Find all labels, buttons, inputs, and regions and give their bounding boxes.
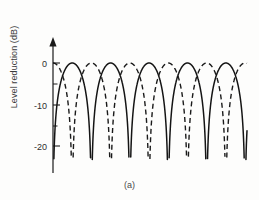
figure-caption: (a)	[0, 180, 259, 190]
figure-panel: Level reduction (dB) 0 -10 -20	[0, 0, 259, 200]
y-axis-arrow-icon	[49, 37, 56, 47]
y-tick-label-minus-20: -20	[34, 142, 47, 152]
chart-svg: 0 -10 -20	[0, 0, 259, 200]
y-tick-label-0: 0	[42, 59, 47, 69]
solid-response-curve	[54, 63, 247, 160]
y-tick-label-minus-10: -10	[34, 101, 47, 111]
